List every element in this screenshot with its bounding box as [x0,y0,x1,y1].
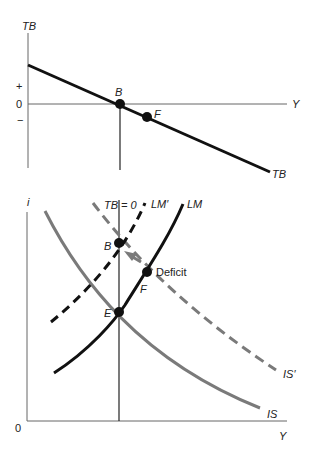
point-e-label: E [104,307,112,319]
i-axis-label: i [27,196,30,208]
point-b [114,238,124,248]
point-b-label: B [104,240,111,252]
is-prime-label: IS′ [283,368,296,380]
top-x-axis-label: Y [292,98,300,110]
zero-label: 0 [16,98,22,110]
is-prime-curve [93,203,276,370]
plus-label: + [16,80,22,92]
minus-label: − [17,114,23,126]
is-label: IS [267,408,278,420]
top-point-b [115,99,125,109]
point-e [114,307,124,317]
lm-prime-curve [51,203,145,322]
diagram: TB Y + 0 − TB B F i Y 0 TB = 0 IS IS′ LM… [0,0,314,460]
lm-prime-label: LM′ [151,198,169,210]
deficit-label: Deficit [156,266,187,278]
point-f-label: F [140,283,148,295]
tb-line-label: TB [272,168,286,180]
top-point-f [142,112,152,122]
tb-zero-label: TB = 0 [104,199,138,211]
top-point-b-label: B [115,86,122,98]
top-y-axis-label: TB [22,20,36,32]
is-curve [45,211,260,408]
lm-label: LM [187,198,203,210]
point-f [142,267,152,277]
bottom-x-axis-label: Y [279,430,287,442]
origin-label: 0 [15,422,21,434]
top-point-f-label: F [154,108,162,120]
